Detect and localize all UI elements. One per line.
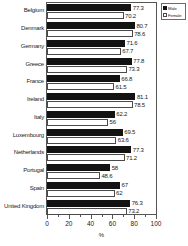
bar-group-item: 69.5: [47, 129, 156, 136]
x-axis-minor-tick: [80, 215, 81, 217]
x-axis-tick: [134, 215, 135, 219]
bar-value-label: 56: [110, 119, 116, 126]
bar-group-item: 81.1: [47, 93, 156, 100]
bar-group-item: 80.7: [47, 22, 156, 29]
bar-value-label: 63.6: [118, 137, 129, 144]
bar-value-label: 70.2: [125, 12, 136, 19]
bar: [47, 146, 131, 153]
bar-group-item: 56: [47, 119, 156, 126]
bar: [47, 190, 115, 197]
legend-label: Male: [168, 6, 177, 11]
bar-group-item: 73.3: [47, 66, 156, 73]
bar-group-item: 63.6: [47, 137, 156, 144]
bar-group-item: 61.5: [47, 83, 156, 90]
bar-group-item: 71.6: [47, 40, 156, 47]
bar-value-label: 67.7: [122, 48, 133, 55]
x-axis: % 020406080100: [46, 215, 157, 245]
x-axis-tick: [112, 215, 113, 219]
legend: MaleFemale: [161, 3, 186, 20]
x-axis-tick-label: 60: [109, 220, 116, 228]
bar-value-label: 76.3: [132, 200, 143, 207]
legend-swatch-female: [163, 13, 167, 17]
category-label: Spain: [0, 185, 44, 192]
category-label: Ireland: [0, 96, 44, 103]
legend-item: Female: [163, 12, 184, 18]
bar-value-label: 78.5: [134, 101, 145, 108]
bar: [47, 101, 133, 108]
bar-value-label: 71.6: [127, 40, 138, 47]
bar-group-item: 48.6: [47, 172, 156, 179]
bar-value-label: 81.1: [137, 93, 148, 100]
x-axis-title: %: [99, 231, 104, 239]
x-axis-tick: [156, 215, 157, 219]
category-label: Belgium: [0, 7, 44, 14]
bar-group-item: 77.3: [47, 4, 156, 11]
bar-value-label: 71.2: [126, 154, 137, 161]
bar-value-label: 73.3: [128, 66, 139, 73]
bar-group-item: 78.6: [47, 30, 156, 37]
bar: [47, 66, 127, 73]
bar: [47, 83, 114, 90]
legend-label: Female: [168, 13, 181, 18]
category-label: Greece: [0, 61, 44, 68]
bar: [47, 48, 121, 55]
bar-value-label: 62: [116, 190, 122, 197]
category-label: Netherlands: [0, 149, 44, 156]
bar: [47, 208, 127, 215]
bar: [47, 111, 115, 118]
x-axis-tick-label: 100: [151, 220, 162, 228]
category-label: Italy: [0, 114, 44, 121]
bar-group-item: 71.2: [47, 154, 156, 161]
bar-value-label: 62.2: [116, 111, 127, 118]
legend-swatch-male: [163, 6, 167, 10]
bar-group-item: 62: [47, 190, 156, 197]
x-axis-tick-label: 40: [87, 220, 94, 228]
x-axis-tick: [69, 215, 70, 219]
bar-group-item: 76.3: [47, 200, 156, 207]
bar-chart: BelgiumDenmarkGermanyGreeceFranceIreland…: [0, 0, 188, 246]
x-axis-tick-label: 80: [131, 220, 138, 228]
bar-value-label: 77.3: [133, 146, 144, 153]
bar-value-label: 77.8: [133, 58, 144, 65]
bar: [47, 182, 120, 189]
bar: [47, 137, 116, 144]
category-label: United Kingdom: [0, 203, 44, 210]
bar: [47, 119, 108, 126]
bar-group-item: 66.8: [47, 75, 156, 82]
bar: [47, 93, 135, 100]
plot-area: 77.370.280.778.671.667.777.873.366.861.5…: [46, 2, 157, 215]
bar-value-label: 58: [112, 164, 118, 171]
bar: [47, 154, 125, 161]
category-label: Portugal: [0, 167, 44, 174]
bar-value-label: 73.2: [128, 208, 139, 215]
legend-item: Male: [163, 5, 184, 11]
bar-value-label: 67: [122, 182, 128, 189]
bar: [47, 164, 110, 171]
x-axis-minor-tick: [123, 215, 124, 217]
bar: [47, 200, 130, 207]
category-label: Denmark: [0, 25, 44, 32]
x-axis-tick-label: 0: [45, 220, 49, 228]
bar: [47, 30, 133, 37]
bar: [47, 4, 131, 11]
bar: [47, 40, 125, 47]
x-axis-minor-tick: [58, 215, 59, 217]
bar-group-item: 77.8: [47, 58, 156, 65]
bar-value-label: 77.3: [133, 4, 144, 11]
bar-value-label: 66.8: [121, 75, 132, 82]
bar: [47, 12, 124, 19]
bar-value-label: 61.5: [116, 83, 127, 90]
category-label: Luxembourg: [0, 132, 44, 139]
bar-group-item: 67.7: [47, 48, 156, 55]
bar: [47, 75, 120, 82]
category-axis-labels: BelgiumDenmarkGermanyGreeceFranceIreland…: [0, 2, 44, 215]
bar-group-item: 67: [47, 182, 156, 189]
x-axis-tick-label: 20: [65, 220, 72, 228]
x-axis-tick: [47, 215, 48, 219]
x-axis-minor-tick: [145, 215, 146, 217]
category-label: France: [0, 78, 44, 85]
bar-group-item: 70.2: [47, 12, 156, 19]
bar: [47, 22, 135, 29]
category-label: Germany: [0, 43, 44, 50]
bar-value-label: 48.6: [101, 172, 112, 179]
